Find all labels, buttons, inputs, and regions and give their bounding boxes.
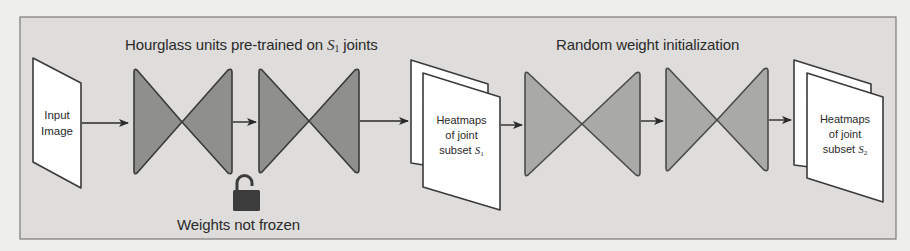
heatmaps-s2-subset-text: subset — [823, 143, 858, 155]
pretrained-title-suffix: joints — [339, 36, 378, 53]
pretrained-group-title: Hourglass units pre-trained on S1 joints — [125, 36, 378, 54]
input-image-label: Input Image — [33, 107, 81, 139]
pretrained-title-math: S1 — [327, 37, 339, 53]
weights-not-frozen-label: Weights not frozen — [177, 216, 300, 233]
heatmaps-s2-label: Heatmaps of joint subset S2 — [807, 112, 883, 161]
heatmaps-s1-line3: subset S1 — [423, 143, 500, 162]
heatmaps-s1-line1: Heatmaps — [423, 113, 500, 128]
input-label-line1: Input — [33, 107, 81, 123]
heatmaps-s2-line1: Heatmaps — [807, 112, 883, 127]
random-init-group-title: Random weight initialization — [556, 36, 739, 53]
pretrained-title-text: Hourglass units pre-trained on — [125, 36, 327, 53]
heatmaps-s1-subset-text: subset — [439, 144, 474, 156]
input-label-line2: Image — [33, 123, 81, 139]
math-subscript: 2 — [864, 149, 868, 157]
heatmaps-s1-math: S1 — [475, 144, 484, 156]
math-subscript: 1 — [480, 150, 484, 158]
heatmaps-s2-line3: subset S2 — [807, 142, 883, 161]
heatmaps-s1-label: Heatmaps of joint subset S1 — [423, 113, 500, 162]
heatmaps-s1-line2: of joint — [423, 128, 500, 143]
heatmaps-s2-line2: of joint — [807, 127, 883, 142]
heatmaps-s2-math: S2 — [858, 143, 867, 155]
